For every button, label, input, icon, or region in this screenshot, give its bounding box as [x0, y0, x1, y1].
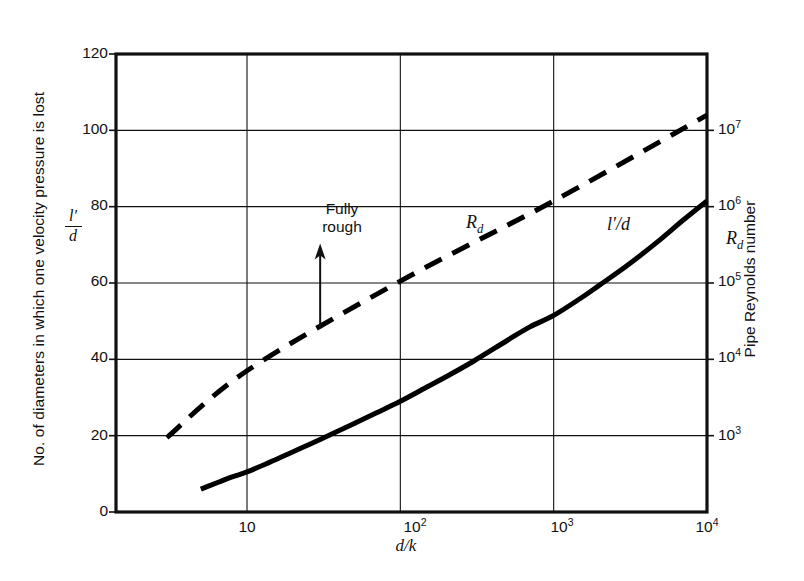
data-series-layer [167, 115, 707, 489]
series-path-reynolds [167, 115, 707, 438]
gridlines [116, 54, 707, 512]
annotation-arrow-layer [315, 243, 326, 328]
plot-area [0, 0, 804, 581]
series-path-l-over-d [201, 201, 707, 489]
chart-figure: No. of diameters in which one velocity p… [0, 0, 804, 581]
